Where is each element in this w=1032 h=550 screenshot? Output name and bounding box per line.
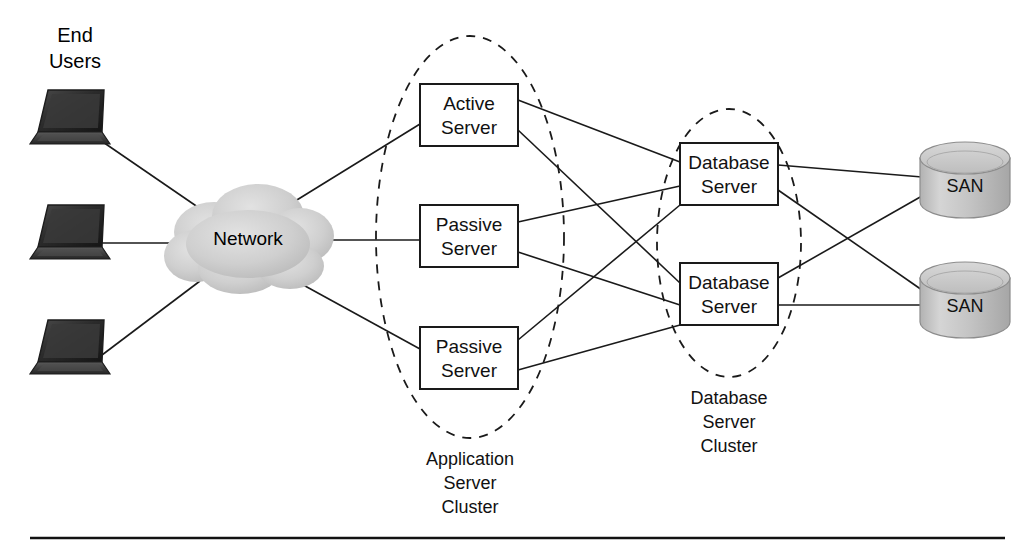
laptop-icon[interactable]: [30, 205, 110, 259]
active-server-label-line1: Active: [443, 93, 495, 114]
passive-server-2-label-line1: Passive: [436, 336, 503, 357]
end-users-label-line1: End: [57, 24, 93, 46]
link-passive-server-2-db1: [518, 205, 680, 340]
network-label: Network: [213, 228, 283, 249]
network-architecture-diagram: End Users: [0, 0, 1032, 550]
san-2-label: SAN: [946, 296, 983, 316]
application-cluster-label-line2: Server: [443, 473, 496, 493]
diagram-canvas: End Users: [0, 0, 1032, 550]
database-cluster-label-line2: Server: [702, 412, 755, 432]
end-users-group: End Users: [30, 24, 110, 374]
application-cluster-label-line3: Cluster: [441, 497, 498, 517]
active-server-label-line2: Server: [441, 117, 498, 138]
application-server-passive-1[interactable]: Passive Server: [420, 205, 518, 267]
link-network-active-server: [292, 124, 420, 203]
application-server-cluster: Active Server Passive Server Passive Ser…: [376, 36, 564, 517]
san-storage-1[interactable]: SAN: [920, 142, 1010, 218]
link-db1-san1: [778, 165, 922, 177]
passive-server-1-label-line1: Passive: [436, 214, 503, 235]
database-server-2-label-line2: Server: [701, 296, 758, 317]
link-laptop3-network: [102, 281, 200, 355]
database-server-1-label-line2: Server: [701, 176, 758, 197]
san-storage-2[interactable]: SAN: [920, 262, 1010, 338]
application-server-active[interactable]: Active Server: [420, 84, 518, 146]
link-db1-san2: [778, 190, 922, 290]
database-server-1-label-line1: Database: [688, 152, 769, 173]
application-cluster-label-line1: Application: [426, 449, 514, 469]
database-cluster-label-line1: Database: [690, 388, 767, 408]
application-server-passive-2[interactable]: Passive Server: [420, 327, 518, 389]
end-users-label-line2: Users: [49, 50, 101, 72]
link-passive-server-2-db2: [518, 325, 680, 370]
database-server-2-label-line1: Database: [688, 272, 769, 293]
database-server-2[interactable]: Database Server: [680, 263, 778, 325]
laptop-icon[interactable]: [30, 320, 110, 374]
passive-server-2-label-line2: Server: [441, 360, 498, 381]
link-passive-server-1-db1: [518, 186, 680, 222]
laptop-icon[interactable]: [30, 90, 110, 144]
database-cluster-label-line3: Cluster: [700, 436, 757, 456]
link-laptop1-network: [100, 140, 205, 212]
database-server-1[interactable]: Database Server: [680, 143, 778, 205]
storage-group: SAN SAN: [920, 142, 1010, 338]
passive-server-1-label-line2: Server: [441, 238, 498, 259]
link-network-passive-server-2: [296, 281, 420, 349]
san-1-label: SAN: [946, 176, 983, 196]
